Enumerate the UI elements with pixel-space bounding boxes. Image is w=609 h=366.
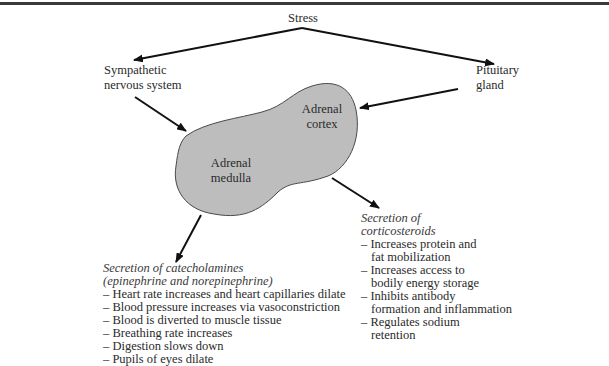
node-adrenal-medulla: Adrenal medulla — [196, 156, 266, 186]
corticosteroids-item: Inhibits antibodyformation and inflammat… — [361, 290, 512, 316]
cortex-label-line1: Adrenal — [292, 102, 352, 117]
arrow-sympathetic-to-medulla — [135, 97, 186, 131]
node-adrenal-cortex: Adrenal cortex — [292, 102, 352, 132]
corticosteroids-effects: Secretion of corticosteroids Increases p… — [361, 212, 512, 342]
medulla-label-line1: Adrenal — [196, 156, 266, 171]
sympathetic-label-line2: nervous system — [104, 78, 181, 93]
arrow-stress-to-pituitary — [302, 28, 494, 64]
arrow-medulla-to-catecholamines — [176, 215, 201, 262]
catecholamines-item: Pupils of eyes dilate — [103, 353, 346, 366]
corticosteroids-list: Increases protein andfat mobilization In… — [361, 238, 512, 342]
corticosteroids-item: Regulates sodiumretention — [361, 316, 512, 342]
node-sympathetic: Sympathetic nervous system — [104, 63, 181, 93]
stress-label: Stress — [288, 11, 318, 25]
arrow-cortex-to-corticosteroids — [332, 178, 379, 208]
arrow-stress-to-sympathetic — [134, 28, 302, 60]
node-stress: Stress — [283, 11, 323, 26]
corticosteroids-item: Increases access tobodily energy storage — [361, 264, 512, 290]
sympathetic-label-line1: Sympathetic — [104, 63, 181, 78]
catecholamines-list: Heart rate increases and heart capillari… — [103, 288, 346, 366]
corticosteroids-item: Increases protein andfat mobilization — [361, 238, 512, 264]
medulla-label-line2: medulla — [196, 171, 266, 186]
pituitary-label-line1: Pituitary — [476, 63, 519, 78]
pituitary-label-line2: gland — [476, 78, 519, 93]
catecholamines-effects: Secretion of catecholamines (epinephrine… — [103, 262, 346, 366]
cortex-label-line2: cortex — [292, 117, 352, 132]
arrow-pituitary-to-cortex — [360, 89, 458, 108]
node-pituitary: Pituitary gland — [476, 63, 519, 93]
